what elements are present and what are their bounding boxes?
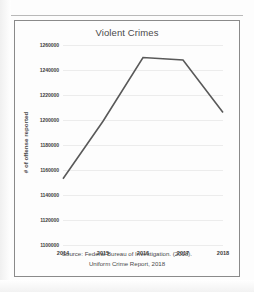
y-tick-label: 1260000 — [40, 42, 59, 48]
source-caption-line-2: Uniform Crime Report, 2018 — [21, 259, 233, 269]
y-tick-label: 1120000 — [40, 217, 59, 223]
source-caption: Source: Federal Bureau of Investigation.… — [21, 249, 233, 269]
y-tick-label: 1180000 — [40, 142, 59, 148]
y-tick-label: 1140000 — [40, 192, 59, 198]
y-tick-label: 1220000 — [40, 92, 59, 98]
violent-crimes-line — [63, 58, 223, 179]
y-tick-label: 1160000 — [40, 167, 59, 173]
source-caption-line-1: Source: Federal Bureau of Investigation.… — [21, 249, 233, 259]
y-tick-label: 1200000 — [40, 117, 59, 123]
y-tick-label: 1240000 — [40, 67, 59, 73]
y-tick-label: 1100000 — [40, 242, 59, 248]
gridline — [63, 245, 223, 246]
horizontal-rule — [11, 15, 243, 16]
chart-figure-container: Violent Crimes # of offense reported 126… — [14, 20, 240, 277]
chart-title: Violent Crimes — [15, 27, 239, 38]
plot-area: 1260000124000012200001200000118000011600… — [63, 45, 223, 245]
data-series-line — [63, 45, 223, 245]
y-axis-title: # of offense reported — [22, 100, 29, 186]
